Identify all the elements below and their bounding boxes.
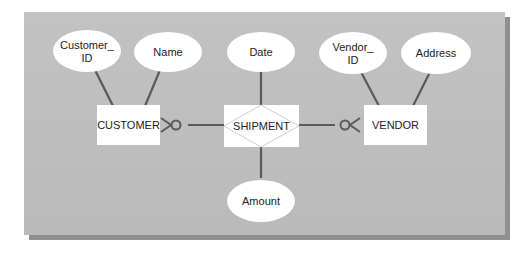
label-name: Name [134, 46, 202, 59]
label-customer: CUSTOMER [97, 119, 160, 132]
label-vendor: VENDOR [364, 119, 427, 132]
label-shipment: SHIPMENT [224, 120, 299, 133]
label-date: Date [227, 46, 295, 59]
label-amount: Amount [227, 195, 295, 208]
label-vendor-id: Vendor_ID [319, 41, 387, 67]
crows-foot-customer-icon [161, 118, 181, 132]
label-address: Address [401, 47, 471, 60]
crows-foot-vendor-icon [341, 118, 361, 132]
label-customer-id: Customer_ID [53, 39, 121, 65]
